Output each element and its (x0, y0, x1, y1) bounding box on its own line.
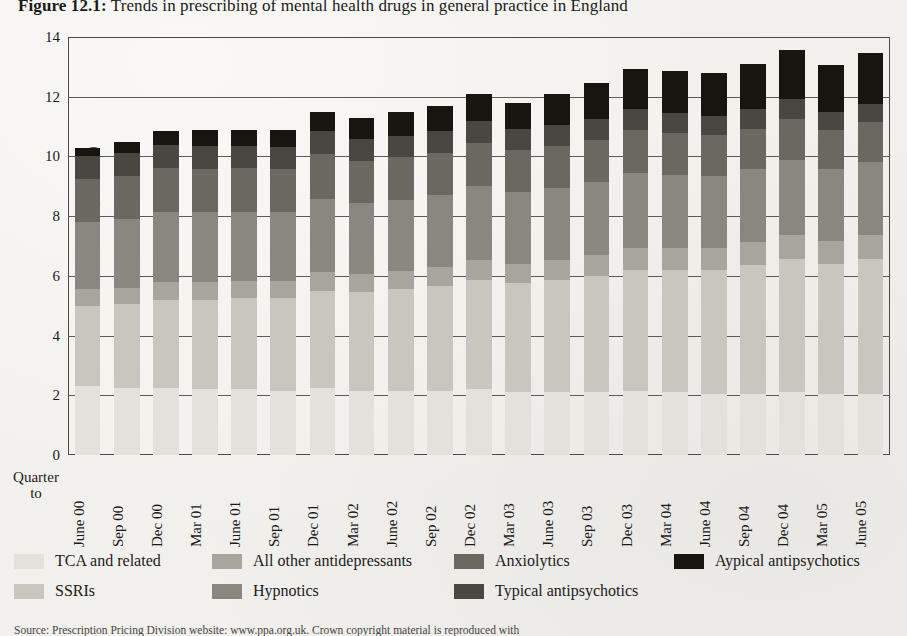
x-axis-tick-label: Sep 03 (579, 506, 596, 547)
bar-segment (270, 391, 296, 455)
bar-segment (740, 394, 766, 455)
legend-label: Aypical antipsychotics (715, 552, 860, 570)
bar-segment (192, 389, 218, 455)
bar-segment (858, 122, 884, 161)
bar-segment (623, 248, 649, 270)
bar-segment (818, 112, 844, 131)
bar-segment (231, 168, 257, 211)
bar-segment (231, 298, 257, 389)
x-axis-tick-label: Mar 05 (814, 503, 831, 547)
legend-item: All other antidepressants (212, 552, 412, 570)
bar-segment (701, 73, 727, 116)
bar-segment (505, 103, 531, 129)
bar-segment (662, 133, 688, 174)
bar-segment (75, 222, 101, 289)
bar-segment (858, 235, 884, 259)
y-axis-tick-label: 4 (53, 327, 61, 344)
bar-segment (779, 50, 805, 99)
bar-mar-03 (505, 103, 531, 455)
figure-caption: Trends in prescribing of mental health d… (107, 0, 628, 15)
bar-segment (466, 280, 492, 389)
bar-june-00 (75, 147, 101, 455)
y-axis-tick-label: 2 (53, 387, 61, 404)
y-axis-tick-label: 10 (45, 148, 60, 165)
bar-dec-01 (310, 112, 336, 455)
bar-segment (427, 267, 453, 286)
bar-segment (584, 276, 610, 392)
legend-item: Aypical antipsychotics (674, 552, 860, 570)
bar-june-03 (544, 94, 570, 455)
x-axis-tick-label: Mar 03 (501, 503, 518, 547)
bar-segment (544, 260, 570, 280)
bar-segment (662, 113, 688, 133)
y-axis-tick-label: 12 (45, 88, 60, 105)
bar-segment (427, 286, 453, 391)
bar-segment (310, 272, 336, 291)
legend-item: Typical antipsychotics (454, 582, 638, 600)
bar-segment (231, 146, 257, 168)
bar-segment (818, 394, 844, 455)
x-axis-tick-label: Dec 00 (149, 504, 166, 547)
bar-dec-02 (466, 94, 492, 455)
bar-segment (505, 192, 531, 264)
bar-segment (349, 139, 375, 161)
legend-item: Anxiolytics (454, 552, 570, 570)
x-axis-tick-label: June 04 (697, 501, 714, 547)
bar-segment (858, 394, 884, 455)
legend-label: TCA and related (55, 552, 161, 570)
bar-segment (231, 389, 257, 455)
bar-segment (740, 169, 766, 242)
bar-segment (153, 388, 179, 455)
chart-plot-area: 02468101214 Items (Millions) (68, 37, 890, 455)
bar-segment (427, 391, 453, 455)
bar-segment (388, 112, 414, 136)
bar-segment (388, 200, 414, 271)
legend-label: Hypnotics (253, 582, 319, 600)
bar-series-container (68, 37, 890, 455)
bar-segment (505, 283, 531, 392)
legend-label: Typical antipsychotics (495, 582, 638, 600)
bar-segment (349, 292, 375, 391)
bar-segment (270, 281, 296, 298)
bar-segment (388, 157, 414, 199)
bar-segment (75, 289, 101, 305)
bar-segment (466, 260, 492, 280)
bar-segment (114, 153, 140, 176)
x-axis-tick-label: Mar 04 (658, 503, 675, 547)
bar-segment (388, 271, 414, 290)
bar-sep-03 (584, 83, 610, 455)
bar-segment (75, 306, 101, 387)
bar-dec-03 (623, 69, 649, 455)
bar-segment (192, 300, 218, 390)
bar-mar-05 (818, 65, 844, 455)
bar-segment (584, 140, 610, 182)
x-axis-tick-label: June 00 (71, 501, 88, 547)
bar-segment (310, 131, 336, 154)
bar-sep-01 (270, 130, 296, 455)
bar-segment (349, 391, 375, 455)
bar-segment (584, 83, 610, 119)
x-axis-tick-label: June 02 (384, 501, 401, 547)
bar-segment (779, 160, 805, 235)
bar-segment (270, 169, 296, 211)
bar-segment (153, 145, 179, 168)
bar-segment (270, 147, 296, 169)
bar-segment (701, 248, 727, 270)
bar-segment (153, 168, 179, 212)
bar-segment (192, 212, 218, 282)
x-axis-tick-label: Dec 01 (305, 504, 322, 547)
bar-segment (701, 270, 727, 394)
bar-segment (623, 69, 649, 109)
bar-segment (427, 106, 453, 131)
bar-segment (779, 235, 805, 259)
bar-segment (623, 391, 649, 455)
bar-segment (231, 130, 257, 146)
bar-segment (349, 118, 375, 139)
legend-label: Anxiolytics (495, 552, 570, 570)
bar-segment (544, 125, 570, 146)
legend-swatch (674, 554, 704, 569)
bar-segment (779, 392, 805, 455)
bar-segment (584, 255, 610, 276)
bar-segment (740, 129, 766, 169)
bar-segment (662, 270, 688, 392)
